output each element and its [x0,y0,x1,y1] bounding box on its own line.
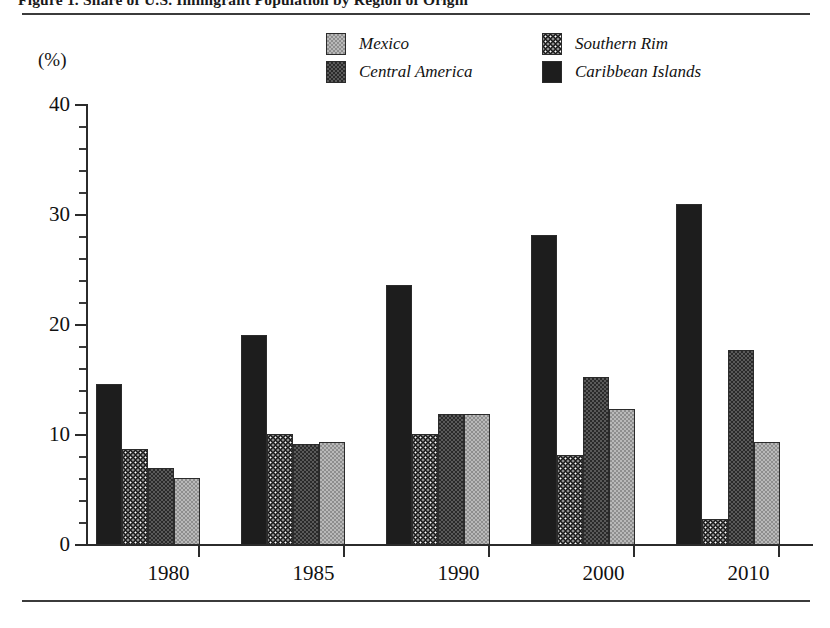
y-tick-label: 10 [24,422,70,447]
y-tick-minor [79,258,86,260]
x-tick-label: 2010 [689,561,809,586]
bar-central-america-1985 [293,444,319,545]
bar-central-america-2010 [728,350,754,545]
y-tick-minor [79,302,86,304]
bar-caribbean-islands-2000 [531,235,557,545]
figure-container: Figure 1. Share of U.S. Immigrant Popula… [0,0,830,628]
bar-southern-rim-1980 [122,449,148,545]
bar-caribbean-islands-2010 [676,204,702,545]
y-tick-major [75,104,86,106]
y-tick-minor [79,412,86,414]
plot-area: (%) 010203040 19801985199020002010 [0,0,830,628]
y-tick-label: 20 [24,312,70,337]
x-tick-mark [633,546,635,557]
y-tick-minor [79,148,86,150]
y-tick-minor [79,478,86,480]
bar-southern-rim-1990 [412,434,438,545]
y-tick-minor [79,126,86,128]
y-tick-label: 30 [24,202,70,227]
bar-southern-rim-1985 [267,434,293,545]
y-tick-minor [79,346,86,348]
y-tick-minor [79,522,86,524]
bar-caribbean-islands-1990 [386,285,412,545]
y-tick-major [75,214,86,216]
x-tick-label: 1980 [109,561,229,586]
bar-caribbean-islands-1980 [96,384,122,545]
y-tick-label: 40 [24,92,70,117]
bar-southern-rim-2010 [702,519,728,545]
bar-mexico-2000 [609,409,635,545]
bar-mexico-1985 [319,442,345,545]
y-axis-line [86,104,88,546]
x-tick-mark [198,546,200,557]
bar-mexico-1980 [174,478,200,545]
y-tick-minor [79,236,86,238]
y-axis-unit-label: (%) [38,49,66,71]
y-tick-label: 0 [24,532,70,557]
y-tick-minor [79,456,86,458]
y-tick-minor [79,368,86,370]
y-tick-minor [79,390,86,392]
bar-central-america-1990 [438,414,464,545]
x-tick-mark [488,546,490,557]
bar-caribbean-islands-1985 [241,335,267,545]
y-tick-major [75,324,86,326]
y-tick-major [75,544,86,546]
bar-mexico-1990 [464,414,490,545]
y-tick-minor [79,280,86,282]
x-tick-label: 1985 [254,561,374,586]
bar-southern-rim-2000 [557,455,583,545]
y-tick-minor [79,170,86,172]
x-tick-mark [778,546,780,557]
bar-central-america-2000 [583,377,609,545]
y-tick-minor [79,192,86,194]
bar-mexico-2010 [754,442,780,545]
bar-central-america-1980 [148,468,174,545]
x-tick-mark [343,546,345,557]
x-tick-label: 1990 [399,561,519,586]
x-tick-label: 2000 [544,561,664,586]
y-tick-major [75,434,86,436]
y-tick-minor [79,500,86,502]
